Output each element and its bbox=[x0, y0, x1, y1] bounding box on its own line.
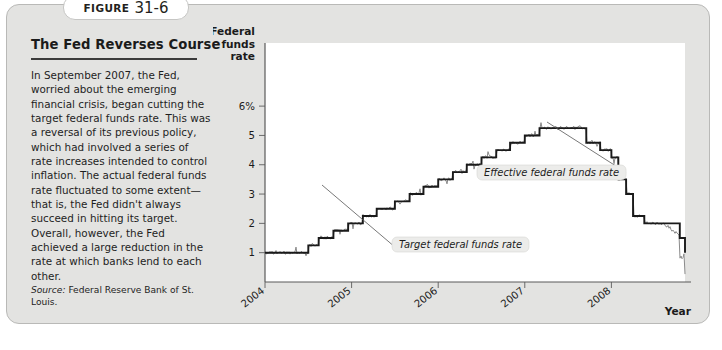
y-tick-label: 1 bbox=[249, 247, 255, 258]
figure-caption-body: In September 2007, the Fed, worried abou… bbox=[31, 68, 211, 283]
figure-number: 31-6 bbox=[134, 0, 168, 17]
y-tick-label: 2 bbox=[249, 218, 255, 229]
x-tick-label: 2007 bbox=[499, 285, 526, 310]
figure-label: FIGURE bbox=[84, 2, 130, 14]
source-label: Source: bbox=[31, 285, 66, 295]
y-tick-label: 3 bbox=[249, 189, 255, 200]
y-axis-title-line: funds bbox=[221, 38, 255, 50]
x-axis-ticks: 20042005200620072008 bbox=[239, 282, 613, 310]
y-axis-ticks: 6%54321 bbox=[239, 101, 265, 259]
y-axis-title: Federalfundsrate bbox=[213, 25, 255, 62]
x-tick-label: 2004 bbox=[239, 285, 266, 310]
x-axis-title: Year bbox=[664, 305, 692, 315]
title-divider bbox=[31, 58, 197, 60]
x-tick-label: 2005 bbox=[326, 285, 353, 310]
y-tick-label: 4 bbox=[249, 159, 255, 170]
y-axis-title-line: rate bbox=[230, 50, 255, 62]
figure-source-note: Source: Federal Reserve Bank of St. Loui… bbox=[31, 285, 211, 308]
annotation-label: Effective federal funds rate bbox=[484, 167, 619, 178]
figure-panel: FIGURE 31-6 The Fed Reverses Course In S… bbox=[6, 4, 710, 324]
chart-svg: Federalfundsrate 6%54321 200420052006200… bbox=[213, 15, 705, 315]
federal-funds-rate-chart: Federalfundsrate 6%54321 200420052006200… bbox=[213, 15, 705, 315]
annotation-label: Target federal funds rate bbox=[399, 239, 522, 250]
page-title: The Fed Reverses Course bbox=[31, 37, 213, 52]
y-tick-label: 5 bbox=[249, 130, 255, 141]
x-tick-label: 2006 bbox=[412, 285, 439, 310]
figure-number-badge: FIGURE 31-6 bbox=[63, 0, 189, 20]
x-axis-title: Year bbox=[664, 305, 692, 315]
y-tick-label: 6% bbox=[239, 101, 255, 112]
figure-text-column: The Fed Reverses Course In September 200… bbox=[31, 37, 213, 308]
x-tick-label: 2008 bbox=[585, 285, 612, 310]
y-axis-title-line: Federal bbox=[213, 25, 255, 37]
